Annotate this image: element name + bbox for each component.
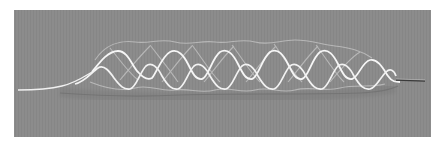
gray-backdrop [14, 10, 431, 137]
stent-photo [0, 0, 439, 147]
